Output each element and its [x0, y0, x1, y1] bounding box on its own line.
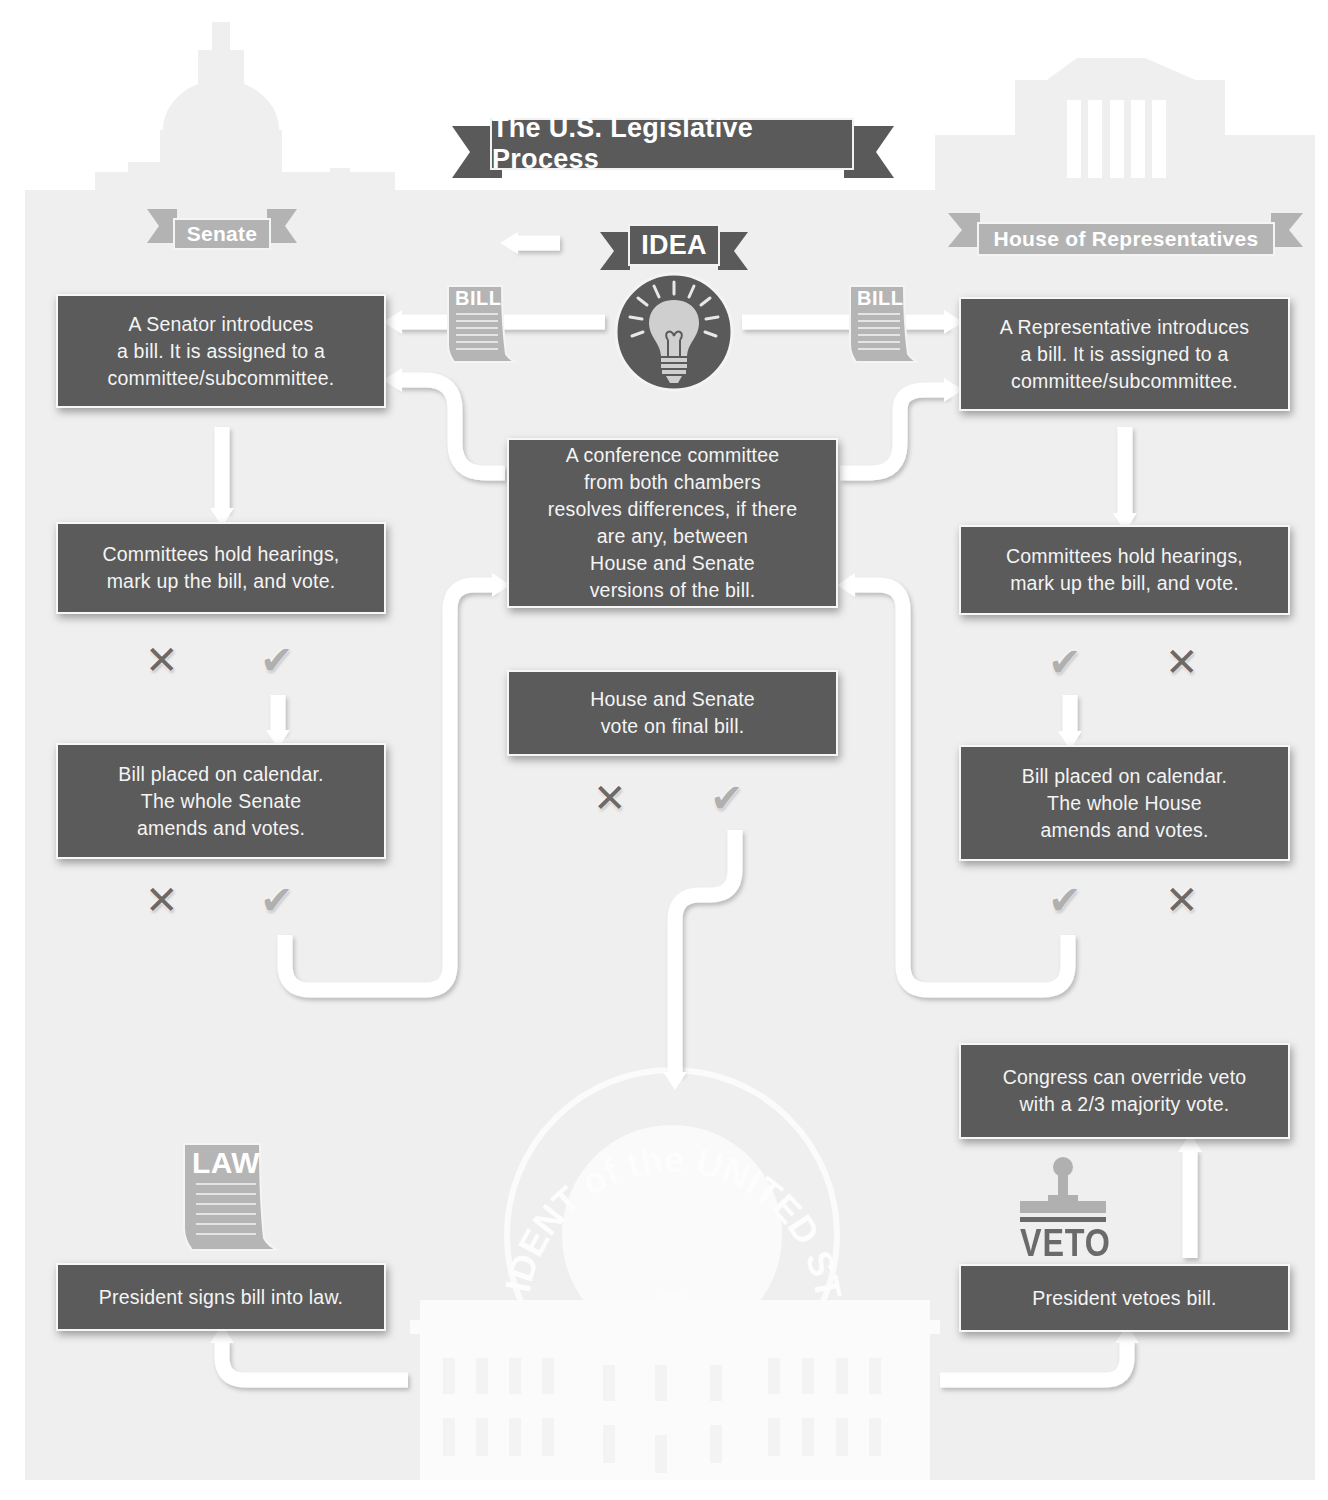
senate-label: Senate: [173, 218, 271, 250]
x-mark-icon: ✕: [1165, 880, 1199, 920]
law-label: LAW: [192, 1146, 260, 1180]
house-step-introduce: A Representative introduces a bill. It i…: [959, 297, 1290, 411]
page-title: The U.S. Legislative Process: [490, 118, 854, 170]
president-signs-step: President signs bill into law.: [56, 1263, 386, 1331]
bill-label-right: BILL: [857, 287, 903, 310]
x-mark-icon: ✕: [593, 778, 627, 818]
x-mark-icon: ✕: [145, 880, 179, 920]
senate-step-introduce: A Senator introduces a bill. It is assig…: [56, 294, 386, 408]
arrow-conference-to-house: [840, 390, 948, 473]
conference-committee-step: A conference committee from both chamber…: [507, 438, 838, 608]
bill-label-left: BILL: [455, 287, 501, 310]
check-mark-icon: ✔: [1048, 880, 1082, 920]
veto-label: VETO: [1020, 1222, 1111, 1265]
check-mark-icon: ✔: [710, 778, 744, 818]
x-mark-icon: ✕: [1165, 642, 1199, 682]
arrow-final-vote-to-president: [675, 830, 735, 1075]
veto-override-step: Congress can override veto with a 2/3 ma…: [959, 1043, 1290, 1139]
check-mark-icon: ✔: [260, 640, 294, 680]
house-step-committee: Committees hold hearings, mark up the bi…: [959, 525, 1290, 615]
veto-stamp-icon: [1018, 1155, 1110, 1227]
x-mark-icon: ✕: [145, 640, 179, 680]
president-vetoes-step: President vetoes bill.: [959, 1264, 1290, 1332]
arrow-president-to-sign: [222, 1340, 408, 1380]
check-mark-icon: ✔: [1048, 642, 1082, 682]
house-step-floor-vote: Bill placed on calendar. The whole House…: [959, 745, 1290, 861]
lightbulb-icon: [612, 270, 736, 394]
check-mark-icon: ✔: [260, 880, 294, 920]
arrow-president-to-veto: [940, 1340, 1127, 1380]
final-vote-step: House and Senate vote on final bill.: [507, 670, 838, 756]
house-label: House of Representatives: [977, 222, 1275, 256]
senate-step-committee: Committees hold hearings, mark up the bi…: [56, 522, 386, 614]
senate-step-floor-vote: Bill placed on calendar. The whole Senat…: [56, 743, 386, 859]
arrow-conference-to-senate: [398, 380, 505, 473]
idea-label: IDEA: [628, 224, 720, 266]
